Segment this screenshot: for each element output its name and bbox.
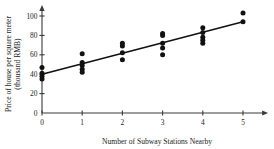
regression-line bbox=[42, 22, 243, 74]
trend-line-segment bbox=[42, 22, 243, 74]
scatter-chart: 020406080100 012345 Number of Subway Sta… bbox=[0, 0, 274, 149]
y-tick-label: 100 bbox=[26, 12, 37, 21]
data-point bbox=[160, 46, 165, 51]
data-point bbox=[120, 57, 125, 62]
data-point bbox=[160, 41, 165, 46]
data-point bbox=[241, 19, 246, 24]
data-point bbox=[80, 51, 85, 56]
y-tick-labels: 020406080100 bbox=[26, 12, 37, 118]
data-point bbox=[120, 50, 125, 55]
x-axis-title: Number of Subway Stations Nearby bbox=[102, 137, 212, 146]
x-tick-label: 2 bbox=[121, 118, 125, 127]
data-point bbox=[200, 30, 205, 35]
y-tick-label: 0 bbox=[34, 109, 38, 118]
y-axis-title-line-2: (thousand RMB) bbox=[13, 38, 22, 90]
y-tick-label: 20 bbox=[30, 89, 38, 98]
data-point bbox=[40, 77, 45, 82]
data-point bbox=[241, 11, 246, 16]
x-tick-label: 4 bbox=[201, 118, 205, 127]
y-tick-label: 40 bbox=[30, 70, 38, 79]
data-point bbox=[80, 70, 85, 75]
data-points bbox=[40, 11, 246, 82]
data-point bbox=[160, 33, 165, 38]
y-axis-title-line-1: Price of house per square meter bbox=[4, 16, 13, 112]
x-tick-label: 1 bbox=[80, 118, 84, 127]
y-tick-label: 60 bbox=[30, 50, 38, 59]
data-point bbox=[200, 25, 205, 30]
x-tick-label: 5 bbox=[241, 118, 245, 127]
data-point bbox=[40, 65, 45, 70]
y-tick-label: 80 bbox=[30, 31, 38, 40]
x-axis bbox=[42, 110, 268, 115]
data-point bbox=[160, 52, 165, 57]
x-tick-label: 0 bbox=[40, 118, 44, 127]
data-point bbox=[200, 41, 205, 46]
chart-plot-area: 020406080100 012345 Number of Subway Sta… bbox=[0, 0, 274, 149]
y-axis bbox=[39, 5, 44, 113]
x-tick-label: 3 bbox=[161, 118, 165, 127]
x-tick-labels: 012345 bbox=[40, 118, 245, 127]
data-point bbox=[120, 44, 125, 49]
